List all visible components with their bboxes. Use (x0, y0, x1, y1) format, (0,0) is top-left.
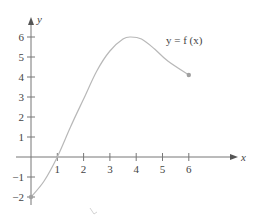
x-tick-label: 5 (160, 163, 166, 175)
endpoint-dot (29, 195, 33, 199)
curve-label: y = f (x) (166, 34, 203, 47)
y-tick-label: −2 (12, 191, 24, 203)
x-tick-label: 2 (81, 163, 87, 175)
x-axis-label: x (240, 151, 246, 163)
y-tick-label: 2 (19, 111, 25, 123)
y-tick-label: 1 (19, 131, 25, 143)
ticks: 123456−2−1123456 (12, 31, 192, 203)
axes (16, 17, 238, 205)
y-axis-arrow-icon (28, 17, 34, 25)
y-tick-label: 5 (19, 51, 25, 63)
endpoint-dot (187, 73, 191, 77)
x-axis-arrow-icon (230, 154, 238, 160)
y-tick-label: −1 (12, 171, 24, 183)
y-tick-label: 6 (19, 31, 25, 43)
y-tick-label: 4 (19, 71, 25, 83)
function-graph: 123456−2−1123456 x y y = f (x) (0, 0, 259, 221)
curve-endpoints (29, 73, 191, 199)
y-tick-label: 3 (19, 91, 25, 103)
x-tick-label: 3 (107, 163, 113, 175)
x-tick-label: 6 (186, 163, 192, 175)
scan-artifact-mark (90, 208, 97, 214)
x-tick-label: 1 (55, 163, 61, 175)
y-axis-label: y (36, 13, 42, 25)
x-tick-label: 4 (133, 163, 139, 175)
